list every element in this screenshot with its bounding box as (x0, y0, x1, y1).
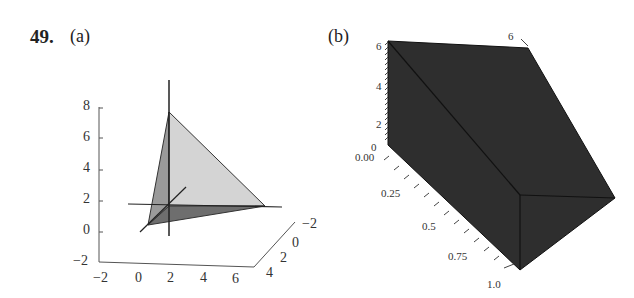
b-dtick-05: 0.5 (422, 220, 436, 232)
b-vtick-6: 6 (376, 40, 382, 52)
figure-b-plot (0, 0, 634, 298)
b-dtick-10: 1.0 (487, 278, 501, 290)
b-dtick-025: 0.25 (381, 187, 400, 199)
b-vtick-4: 4 (376, 80, 382, 92)
b-corner-tick-6: 6 (508, 30, 514, 42)
b-vtick-2: 2 (376, 118, 382, 130)
b-dtick-000: 0.00 (355, 151, 374, 163)
b-dtick-075: 0.75 (448, 250, 467, 262)
